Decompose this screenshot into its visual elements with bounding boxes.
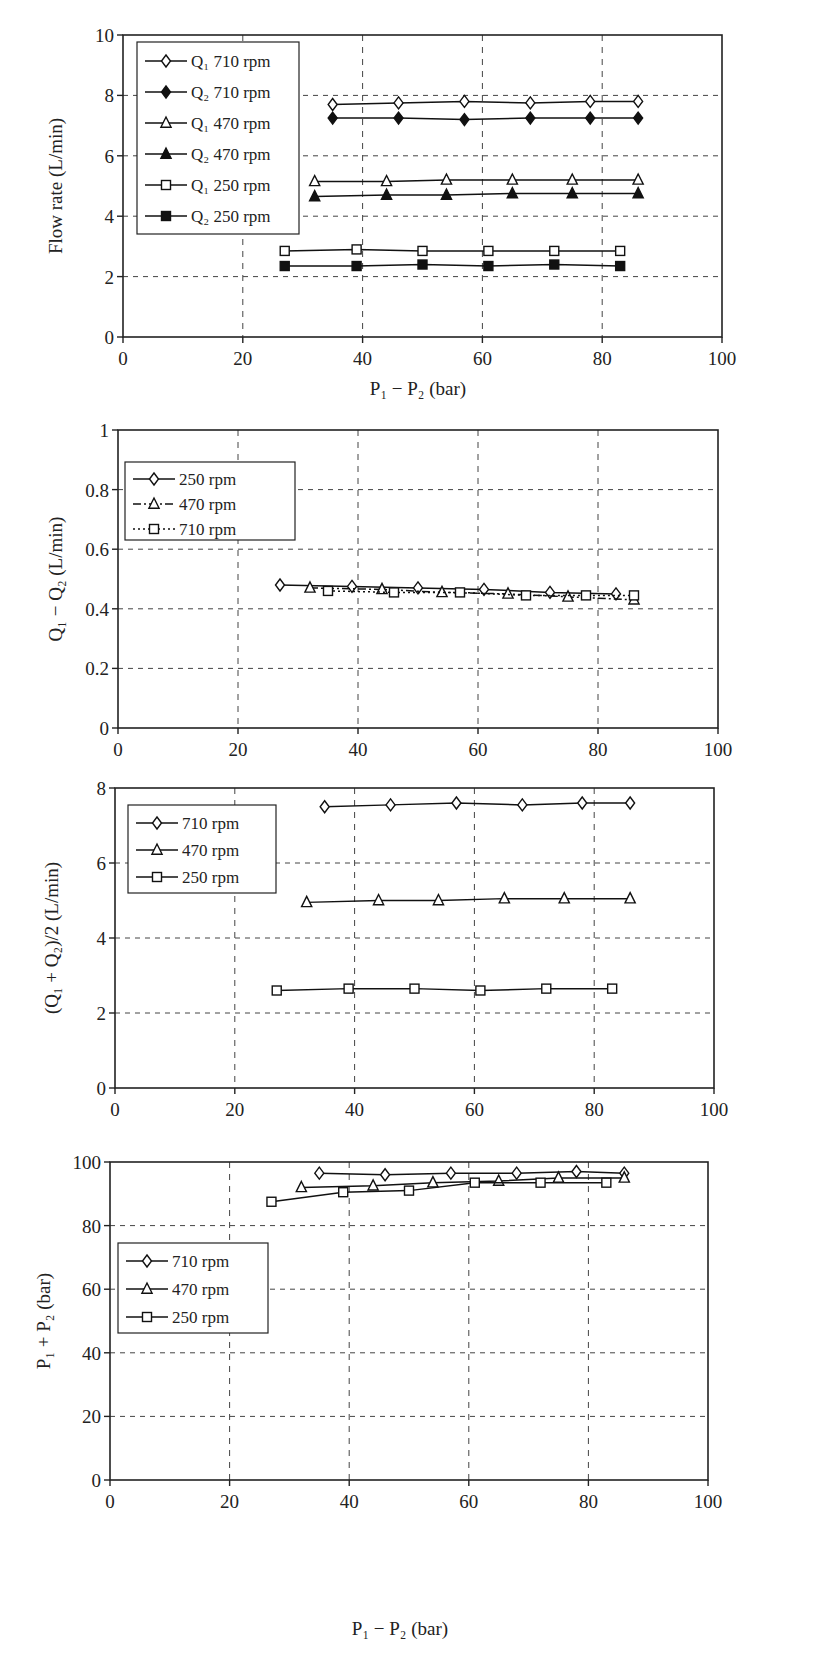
diamond-marker — [518, 799, 527, 811]
diamond-marker — [634, 112, 643, 124]
diamond-marker — [526, 97, 535, 109]
legend-item-label: Q₂ 250 rpm — [191, 207, 271, 226]
square-marker — [324, 586, 333, 595]
chart-flow-mean: 02468020406080100(Q₁ + Q₂)/2 (L/min)710 … — [0, 765, 816, 1135]
y-tick-label: 0.4 — [85, 599, 109, 620]
triangle-marker — [507, 174, 517, 184]
y-tick-label: 2 — [97, 1003, 107, 1024]
legend: 710 rpm470 rpm250 rpm — [128, 805, 276, 893]
legend-item-label: 710 rpm — [179, 520, 236, 539]
chart-flow-difference-svg: 00.20.40.60.81020406080100Q₁ − Q₂ (L/min… — [0, 410, 816, 765]
x-tick-label: 20 — [225, 1099, 244, 1120]
square-marker — [550, 246, 559, 255]
chart-flow-rate-xlabel: P₁ − P₂ (bar) — [370, 378, 466, 400]
x-tick-label: 60 — [465, 1099, 484, 1120]
square-marker — [390, 588, 399, 597]
x-tick-label: 100 — [694, 1491, 723, 1512]
x-tick-label: 0 — [118, 348, 128, 369]
y-axis-label: P₁ + P₂ (bar) — [33, 1273, 55, 1369]
diamond-marker — [320, 801, 329, 813]
x-tick-label: 20 — [220, 1491, 239, 1512]
x-tick-label: 60 — [459, 1491, 478, 1512]
series-line — [315, 194, 638, 197]
diamond-marker — [612, 588, 621, 600]
y-tick-label: 0.6 — [85, 539, 109, 560]
square-marker — [405, 1186, 414, 1195]
legend-item-label: 470 rpm — [179, 495, 236, 514]
chart-flow-mean-svg: 02468020406080100(Q₁ + Q₂)/2 (L/min)710 … — [0, 765, 816, 1135]
triangle-marker — [305, 582, 315, 592]
legend: 710 rpm470 rpm250 rpm — [118, 1243, 268, 1333]
diamond-marker — [381, 1169, 390, 1181]
y-tick-label: 80 — [82, 1216, 101, 1237]
chart-pressure-sum: 020406080100020406080100P₁ + P₂ (bar)710… — [0, 1135, 816, 1655]
x-tick-label: 100 — [704, 739, 733, 760]
triangle-marker — [567, 174, 577, 184]
square-marker — [143, 1313, 152, 1322]
y-tick-label: 20 — [82, 1406, 101, 1427]
legend-item-label: 710 rpm — [172, 1252, 229, 1271]
triangle-marker — [441, 189, 451, 199]
x-tick-label: 0 — [110, 1099, 120, 1120]
x-tick-label: 20 — [229, 739, 248, 760]
y-tick-label: 10 — [95, 25, 114, 46]
chart-pressure-sum-xlabel: P₁ − P₂ (bar) — [352, 1618, 448, 1640]
x-tick-label: 100 — [708, 348, 737, 369]
square-marker — [418, 260, 427, 269]
legend-item-label: 710 rpm — [182, 814, 239, 833]
diamond-marker — [276, 579, 285, 591]
legend-item-label: Q₁ 470 rpm — [191, 114, 271, 133]
x-tick-label: 40 — [353, 348, 372, 369]
x-tick-label: 40 — [345, 1099, 364, 1120]
legend-item-label: 250 rpm — [179, 470, 236, 489]
square-marker — [267, 1197, 276, 1206]
triangle-marker — [373, 895, 383, 905]
triangle-marker — [633, 188, 643, 198]
x-tick-label: 40 — [340, 1491, 359, 1512]
series-line — [277, 989, 612, 991]
triangle-marker — [499, 893, 509, 903]
square-marker — [456, 588, 465, 597]
triangle-marker — [553, 1172, 563, 1182]
y-tick-label: 6 — [105, 146, 115, 167]
square-marker — [162, 181, 171, 190]
x-tick-label: 60 — [473, 348, 492, 369]
y-tick-label: 1 — [100, 420, 110, 441]
square-marker — [582, 591, 591, 600]
diamond-marker — [512, 1167, 521, 1179]
diamond-marker — [526, 112, 535, 124]
square-marker — [476, 986, 485, 995]
x-tick-label: 20 — [233, 348, 252, 369]
diamond-marker — [460, 114, 469, 126]
square-marker — [344, 984, 353, 993]
triangle-marker — [633, 174, 643, 184]
legend-item-label: Q₂ 470 rpm — [191, 145, 271, 164]
y-tick-label: 4 — [105, 206, 115, 227]
y-axis-label: Q₁ − Q₂ (L/min) — [45, 517, 67, 642]
x-tick-label: 80 — [589, 739, 608, 760]
triangle-marker — [559, 893, 569, 903]
legend: Q₁ 710 rpmQ₂ 710 rpmQ₁ 470 rpmQ₂ 470 rpm… — [137, 42, 299, 234]
x-tick-label: 60 — [469, 739, 488, 760]
chart-flow-rate: 0246810020406080100Flow rate (L/min)Q₁ 7… — [0, 0, 816, 410]
square-marker — [339, 1188, 348, 1197]
square-marker — [352, 262, 361, 271]
triangle-marker — [428, 1177, 438, 1187]
square-marker — [280, 246, 289, 255]
x-tick-label: 80 — [585, 1099, 604, 1120]
y-tick-label: 2 — [105, 267, 115, 288]
square-marker — [484, 246, 493, 255]
square-marker — [410, 984, 419, 993]
diamond-marker — [460, 95, 469, 107]
legend-item-label: 250 rpm — [172, 1308, 229, 1327]
y-axis-label: (Q₁ + Q₂)/2 (L/min) — [41, 862, 63, 1014]
y-tick-label: 40 — [82, 1343, 101, 1364]
series-line — [307, 899, 630, 903]
diamond-marker — [394, 112, 403, 124]
chart-flow-difference: 00.20.40.60.81020406080100Q₁ − Q₂ (L/min… — [0, 410, 816, 765]
x-tick-label: 100 — [700, 1099, 729, 1120]
triangle-marker — [625, 893, 635, 903]
square-marker — [522, 591, 531, 600]
diamond-marker — [578, 797, 587, 809]
triangle-marker — [433, 895, 443, 905]
